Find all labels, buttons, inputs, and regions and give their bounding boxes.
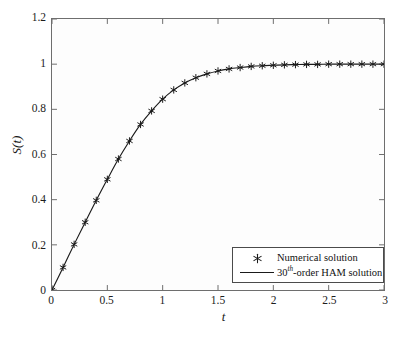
y-tick-label: 0.4 bbox=[10, 194, 46, 206]
asterisk-marker-icon bbox=[237, 251, 277, 265]
figure-canvas: 00.20.40.60.811.2 00.511.522.53 t S(t) N… bbox=[0, 0, 411, 337]
legend-label-ham: 30th-order HAM solution bbox=[277, 266, 382, 278]
x-axis-label-text: t bbox=[222, 309, 226, 324]
x-tick-label: 0.5 bbox=[87, 295, 127, 307]
line-sample-stroke bbox=[240, 272, 274, 273]
legend-item-numerical: Numerical solution bbox=[237, 251, 378, 265]
legend-item-ham: 30th-order HAM solution bbox=[237, 265, 378, 279]
x-tick-label: 3 bbox=[365, 295, 405, 307]
x-tick-label: 2 bbox=[254, 295, 294, 307]
y-tick-label: 1 bbox=[10, 58, 46, 70]
legend-box: Numerical solution 30th-order HAM soluti… bbox=[232, 247, 384, 283]
line-sample-icon bbox=[237, 265, 277, 279]
legend-label-numerical: Numerical solution bbox=[277, 253, 358, 264]
y-tick-label: 0.8 bbox=[10, 103, 46, 115]
x-tick-label: 1.5 bbox=[198, 295, 238, 307]
legend-label-ham-pre: 30 bbox=[277, 267, 288, 278]
y-axis-label: S(t) bbox=[9, 115, 25, 175]
x-tick-label: 2.5 bbox=[309, 295, 349, 307]
y-tick-label: 1.2 bbox=[10, 12, 46, 24]
asterisk-glyph bbox=[251, 252, 264, 265]
x-tick-label: 0 bbox=[31, 295, 71, 307]
legend-label-ham-post: -order HAM solution bbox=[293, 267, 382, 278]
x-tick-label: 1 bbox=[142, 295, 182, 307]
y-axis-label-text: S(t) bbox=[9, 136, 24, 155]
x-axis-label: t bbox=[0, 309, 411, 325]
y-tick-label: 0.2 bbox=[10, 240, 46, 252]
